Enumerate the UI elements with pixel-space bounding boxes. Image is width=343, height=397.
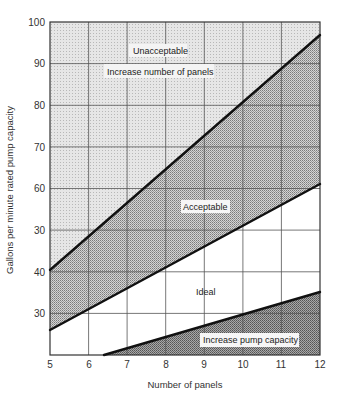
y-axis-title: Gallons per minute rated pump capacity — [4, 106, 15, 274]
x-tick: 12 — [314, 359, 326, 370]
y-tick: 60 — [34, 183, 46, 194]
label-acceptable: Acceptable — [183, 202, 228, 212]
x-tick: 11 — [276, 359, 287, 370]
label-ideal: Ideal — [196, 287, 216, 297]
x-tick: 10 — [237, 359, 249, 370]
y-tick: 40 — [34, 267, 46, 278]
y-tick: 90 — [34, 58, 46, 69]
label-increase-pump: Increase pump capacity — [203, 335, 299, 345]
chart: Unacceptable Increase number of panels A… — [0, 0, 343, 397]
x-tick: 6 — [86, 359, 92, 370]
y-tick: 30 — [34, 308, 46, 319]
y-tick: 30 — [34, 225, 46, 236]
x-tick: 9 — [201, 359, 207, 370]
y-tick: 70 — [34, 142, 46, 153]
y-tick: 80 — [34, 100, 46, 111]
label-increase-panels: Increase number of panels — [107, 67, 214, 77]
y-tick: 100 — [28, 17, 45, 28]
y-axis-ticks: 100 90 80 70 60 30 40 30 — [28, 17, 45, 319]
x-tick: 7 — [124, 359, 130, 370]
x-tick: 5 — [47, 359, 53, 370]
label-unacceptable: Unacceptable — [133, 46, 188, 56]
x-tick: 8 — [163, 359, 169, 370]
x-axis-ticks: 5 6 7 8 9 10 11 12 — [47, 359, 326, 370]
x-axis-title: Number of panels — [148, 379, 223, 390]
